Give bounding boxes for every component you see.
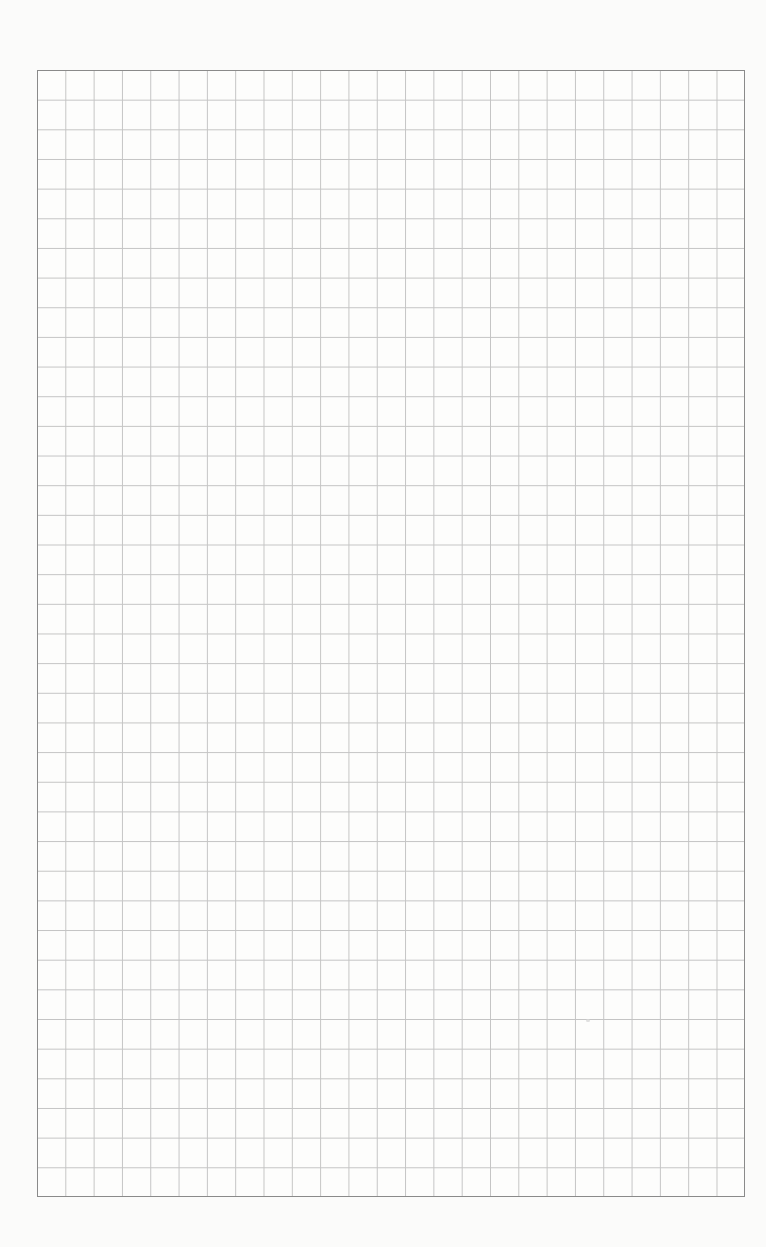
graph-paper-page bbox=[0, 0, 766, 1247]
scan-smudge bbox=[586, 1019, 590, 1022]
grid-area bbox=[37, 70, 745, 1197]
